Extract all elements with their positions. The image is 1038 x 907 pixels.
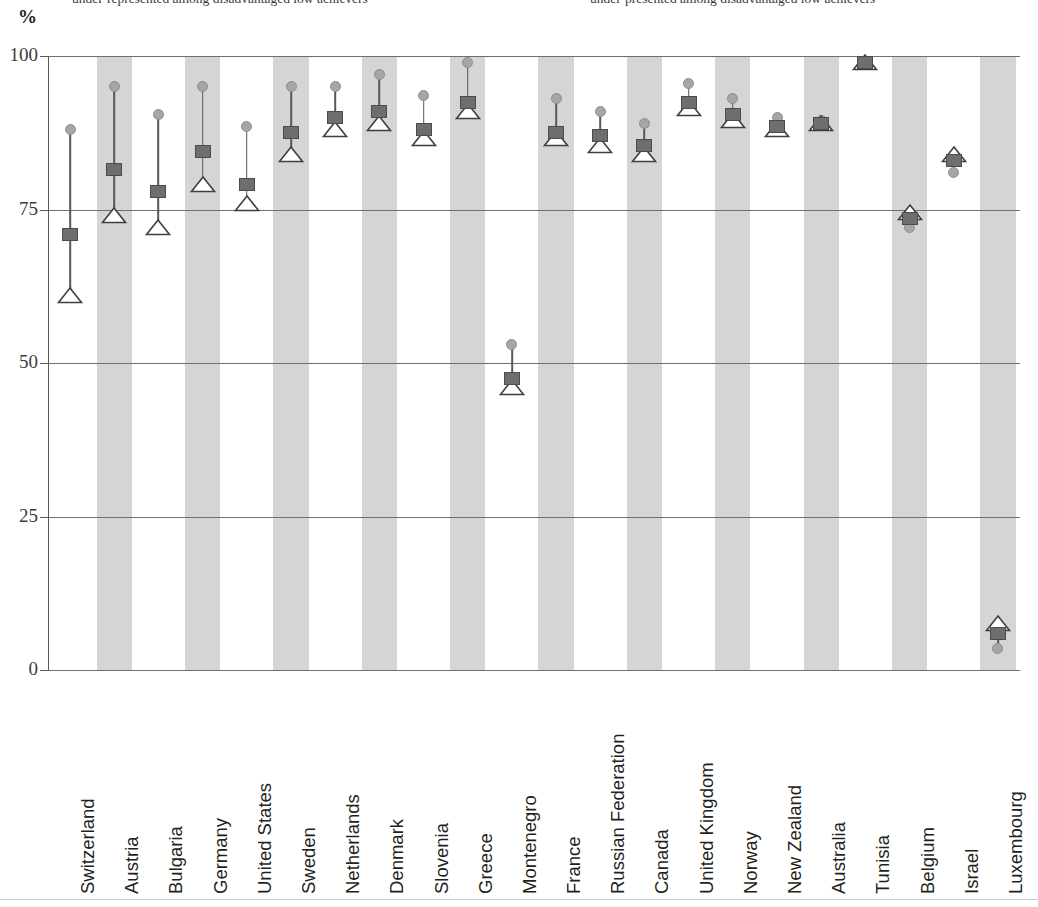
square-marker-greece [460, 96, 476, 109]
x-label-israel: Israel [961, 849, 983, 894]
square-marker-switzerland [62, 228, 78, 241]
x-label-greece: Greece [475, 833, 497, 894]
square-marker-tunisia [857, 56, 873, 69]
triangle-marker-sweden [278, 146, 304, 163]
square-marker-united-states [239, 178, 255, 191]
triangle-marker-austria [101, 207, 127, 224]
square-marker-canada [636, 139, 652, 152]
gridline-0 [48, 670, 1020, 671]
x-label-switzerland: Switzerland [77, 798, 99, 894]
square-marker-new-zealand [769, 120, 785, 133]
triangle-marker-united-states [234, 195, 260, 212]
circle-marker-canada [639, 118, 650, 129]
circle-marker-switzerland [65, 124, 76, 135]
gridline-50 [48, 363, 1020, 364]
circle-marker-russian-federation [595, 106, 606, 117]
header-caption-left: under-represented among disadvantaged lo… [72, 0, 368, 7]
x-label-canada: Canada [651, 829, 673, 894]
square-marker-belgium [902, 212, 918, 225]
triangle-marker-switzerland [57, 287, 83, 304]
square-marker-israel [946, 154, 962, 167]
y-tick-0 [40, 670, 49, 671]
square-marker-bulgaria [150, 185, 166, 198]
x-label-slovenia: Slovenia [431, 823, 453, 894]
gridline-25 [48, 517, 1020, 518]
x-label-norway: Norway [740, 831, 762, 894]
square-marker-france [548, 126, 564, 139]
x-label-germany: Germany [210, 818, 232, 894]
x-label-russian-federation: Russian Federation [607, 734, 629, 894]
x-axis-labels: SwitzerlandAustriaBulgariaGermanyUnited … [0, 672, 1038, 907]
y-tick-50 [40, 363, 49, 364]
circle-marker-denmark [374, 69, 385, 80]
x-label-denmark: Denmark [386, 819, 408, 894]
x-label-united-kingdom: United Kingdom [696, 762, 718, 894]
square-marker-netherlands [327, 111, 343, 124]
x-label-united-states: United States [254, 783, 276, 894]
square-marker-norway [725, 108, 741, 121]
y-tick-25 [40, 517, 49, 518]
range-connector-switzerland [69, 130, 71, 296]
header-caption-right: under-presented among disadvantaged low … [590, 0, 875, 7]
y-tick-label-100: 100 [0, 44, 38, 66]
x-label-luxembourg: Luxembourg [1005, 791, 1027, 894]
y-tick-label-50: 50 [0, 351, 38, 373]
square-marker-germany [195, 145, 211, 158]
y-tick-100 [40, 56, 49, 57]
triangle-marker-bulgaria [145, 219, 171, 236]
circle-marker-sweden [286, 81, 297, 92]
circle-marker-netherlands [330, 81, 341, 92]
square-marker-sweden [283, 126, 299, 139]
y-tick-label-75: 75 [0, 198, 38, 220]
plot-area [48, 56, 1020, 670]
y-tick-label-25: 25 [0, 505, 38, 527]
circle-marker-austria [109, 81, 120, 92]
x-label-austria: Austria [121, 836, 143, 894]
bottom-rule [0, 899, 1038, 900]
x-label-australia: Australia [828, 822, 850, 894]
y-tick-75 [40, 210, 49, 211]
range-connector-sweden [290, 87, 292, 155]
x-label-belgium: Belgium [917, 827, 939, 894]
circle-marker-bulgaria [153, 109, 164, 120]
square-marker-austria [106, 163, 122, 176]
square-marker-slovenia [416, 123, 432, 136]
x-label-sweden: Sweden [298, 827, 320, 894]
gridline-75 [48, 210, 1020, 211]
triangle-marker-germany [190, 176, 216, 193]
header-legend-strip: under-represented among disadvantaged lo… [0, 0, 1038, 14]
x-label-bulgaria: Bulgaria [165, 826, 187, 894]
x-label-france: France [563, 836, 585, 894]
square-marker-russian-federation [592, 129, 608, 142]
square-marker-montenegro [504, 372, 520, 385]
range-connector-germany [202, 87, 204, 185]
range-connector-united-states [246, 127, 248, 204]
y-axis-unit-label: % [18, 6, 37, 28]
square-marker-australia [813, 117, 829, 130]
x-label-montenegro: Montenegro [519, 795, 541, 894]
range-connector-austria [113, 87, 115, 216]
circle-marker-greece [462, 57, 473, 68]
square-marker-luxembourg [990, 627, 1006, 640]
x-label-new-zealand: New Zealand [784, 785, 806, 894]
x-label-tunisia: Tunisia [872, 835, 894, 894]
square-marker-united-kingdom [681, 96, 697, 109]
range-connector-bulgaria [158, 114, 160, 228]
square-marker-denmark [371, 105, 387, 118]
x-label-netherlands: Netherlands [342, 794, 364, 894]
